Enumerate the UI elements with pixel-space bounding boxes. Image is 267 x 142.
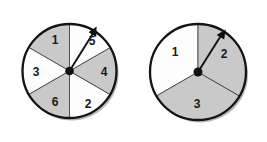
spinner-left-label-2: 2 xyxy=(85,97,92,111)
spinners-figure: 1 5 4 2 6 3 1 2 3 xyxy=(0,0,267,142)
spinner-right[interactable]: 1 2 3 xyxy=(150,24,248,123)
spinner-right-label-1: 1 xyxy=(172,45,179,59)
spinner-left[interactable]: 1 5 4 2 6 3 xyxy=(22,24,118,121)
spinner-left-hub xyxy=(65,67,74,76)
spinner-left-label-1: 1 xyxy=(52,33,59,47)
spinner-left-label-4: 4 xyxy=(101,65,108,79)
spinner-right-label-2: 2 xyxy=(221,47,228,61)
spinner-left-label-6: 6 xyxy=(52,95,59,109)
spinners-canvas: 1 5 4 2 6 3 1 2 3 xyxy=(0,0,267,142)
spinner-left-label-5: 5 xyxy=(89,34,96,48)
spinner-left-label-3: 3 xyxy=(33,65,40,79)
spinner-right-label-3: 3 xyxy=(194,97,201,111)
spinner-right-hub xyxy=(194,68,203,77)
